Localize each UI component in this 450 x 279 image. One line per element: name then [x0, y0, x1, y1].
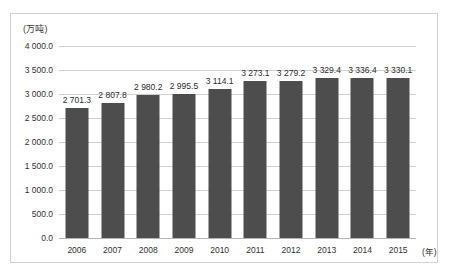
bar-chart-figure: (万吨) 0.0500.01 000.01 500.02 000.02 500.…: [10, 13, 438, 263]
x-tick-label: 2011: [246, 245, 264, 255]
bar[interactable]: [65, 108, 88, 238]
x-tick-label: 2014: [353, 245, 372, 255]
bar-slot: 3 114.1: [202, 46, 238, 238]
bar-value-label: 3 336.4: [348, 65, 376, 75]
bar-slot: 3 273.1: [238, 46, 274, 238]
bar[interactable]: [101, 103, 124, 238]
bar[interactable]: [387, 78, 410, 238]
plot-area: 0.0500.01 000.01 500.02 000.02 500.03 00…: [59, 46, 416, 238]
y-tick-label: 3 000.0: [25, 89, 53, 99]
bar[interactable]: [244, 81, 267, 238]
bar-value-label: 3 273.1: [241, 68, 269, 78]
bar-value-label: 3 330.1: [384, 65, 412, 75]
x-tick-label: 2015: [389, 245, 408, 255]
bar-slot: 3 336.4: [345, 46, 381, 238]
y-axis-unit-label: (万吨): [23, 22, 48, 35]
x-tick-label: 2007: [103, 245, 122, 255]
gridline: [59, 238, 416, 239]
x-tick-label: 2013: [317, 245, 336, 255]
y-tick-label: 2 000.0: [25, 137, 53, 147]
bar-value-label: 2 980.2: [134, 82, 162, 92]
bar-value-label: 3 114.1: [206, 76, 234, 86]
bar-value-label: 3 329.4: [313, 65, 341, 75]
bar-value-label: 2 995.5: [170, 81, 198, 91]
x-axis-unit-label: (年): [422, 245, 437, 257]
bars-layer: 2 701.32 807.82 980.22 995.53 114.13 273…: [59, 46, 416, 238]
bar[interactable]: [137, 95, 160, 238]
bar-slot: 2 980.2: [130, 46, 166, 238]
y-tick-label: 500.0: [32, 209, 53, 219]
y-tick-label: 2 500.0: [25, 113, 53, 123]
bar-slot: 3 329.4: [309, 46, 345, 238]
bar[interactable]: [315, 78, 338, 238]
bar-slot: 3 330.1: [380, 46, 416, 238]
x-tick-label: 2009: [174, 245, 193, 255]
x-tick-label: 2008: [139, 245, 158, 255]
bar-slot: 2 807.8: [95, 46, 131, 238]
bar-value-label: 2 701.3: [63, 95, 91, 105]
bar-value-label: 2 807.8: [98, 90, 126, 100]
y-tick-label: 1 500.0: [25, 161, 53, 171]
bar-value-label: 3 279.2: [277, 68, 305, 78]
bar[interactable]: [208, 89, 231, 238]
x-tick-label: 2010: [210, 245, 229, 255]
bar[interactable]: [280, 81, 303, 238]
bar[interactable]: [351, 78, 374, 238]
x-tick-label: 2006: [67, 245, 86, 255]
x-tick-label: 2012: [282, 245, 301, 255]
y-tick-label: 3 500.0: [25, 65, 53, 75]
bar[interactable]: [172, 94, 195, 238]
y-tick-label: 1 000.0: [25, 185, 53, 195]
y-tick-label: 4 000.0: [25, 41, 53, 51]
bar-slot: 3 279.2: [273, 46, 309, 238]
bar-slot: 2 995.5: [166, 46, 202, 238]
y-tick-label: 0.0: [41, 233, 53, 243]
bar-slot: 2 701.3: [59, 46, 95, 238]
